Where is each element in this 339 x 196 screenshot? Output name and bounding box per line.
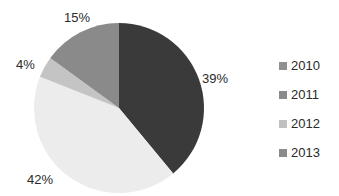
legend-swatch: [279, 91, 287, 99]
legend-swatch: [279, 149, 287, 157]
legend-item-2012: 2012: [279, 109, 320, 138]
legend-swatch: [279, 62, 287, 70]
legend-label: 2012: [291, 116, 320, 131]
slice-label-2013: 15%: [64, 10, 90, 25]
legend-label: 2010: [291, 58, 320, 73]
legend-item-2011: 2011: [279, 80, 320, 109]
legend-swatch: [279, 120, 287, 128]
legend-label: 2013: [291, 145, 320, 160]
slice-label-2012: 4%: [16, 57, 35, 72]
slice-label-2010: 39%: [202, 71, 228, 86]
chart-legend: 2010 2011 2012 2013: [279, 51, 320, 167]
legend-item-2013: 2013: [279, 138, 320, 167]
legend-label: 2011: [291, 87, 319, 102]
slice-label-2011: 42%: [27, 172, 53, 187]
legend-item-2010: 2010: [279, 51, 320, 80]
